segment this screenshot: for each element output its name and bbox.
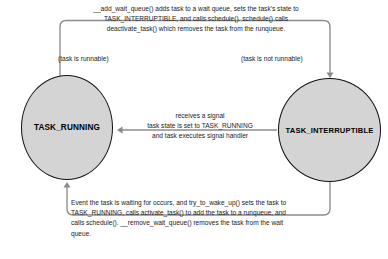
task-running-runnable-note: (task is runnable) xyxy=(58,54,109,64)
task-interruptible-not-runnable-note: (task is not runnable) xyxy=(241,54,303,64)
state-node-task-running: TASK_RUNNING xyxy=(21,75,113,180)
state-transition-diagram: __add_wait_queue() adds task to a wait q… xyxy=(0,0,388,259)
state-node-task-interruptible-label: TASK_INTERRUPTIBLE xyxy=(286,126,374,135)
state-node-task-running-label: TASK_RUNNING xyxy=(34,123,100,132)
edge-label-running-to-interruptible: __add_wait_queue() adds task to a wait q… xyxy=(68,4,324,35)
edge-label-wakeup-transition: Event the task is waiting for occurs, an… xyxy=(71,198,321,239)
edge-label-signal-transition: receives a signal task state is set to T… xyxy=(124,111,276,142)
state-node-task-interruptible: TASK_INTERRUPTIBLE xyxy=(278,78,381,182)
